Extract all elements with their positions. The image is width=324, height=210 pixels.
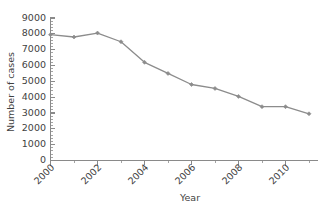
- y-tick-label-8000: 8000: [22, 27, 46, 38]
- series-markers-group: [49, 31, 312, 116]
- x-axis-ticks: [51, 161, 310, 166]
- x-tick-label-2010: 2010: [267, 162, 292, 187]
- y-tick-label-7000: 7000: [22, 43, 46, 54]
- data-point-2002: [96, 31, 100, 35]
- data-point-2000: [49, 33, 53, 37]
- x-axis-title: Year: [179, 192, 200, 203]
- x-tick-label-2002: 2002: [79, 162, 104, 187]
- y-axis-tick-labels: 0 1000 2000 3000 4000 5000 6000 7000 800…: [22, 12, 46, 166]
- x-axis-tick-labels: 2000 2002 2004 2006 2008 2010: [32, 162, 292, 187]
- y-tick-label-2000: 2000: [22, 122, 46, 133]
- chart-plot-area: 0 1000 2000 3000 4000 5000 6000 7000 800…: [0, 0, 324, 210]
- y-axis-ticks: [51, 18, 56, 161]
- data-point-2010: [284, 105, 288, 109]
- data-point-2007: [213, 86, 217, 90]
- x-tick-label-2000: 2000: [32, 162, 57, 187]
- y-tick-label-3000: 3000: [22, 107, 46, 118]
- y-tick-label-5000: 5000: [22, 75, 46, 86]
- data-point-2009: [260, 105, 264, 109]
- data-point-2011: [307, 112, 311, 116]
- data-point-2001: [72, 35, 76, 39]
- data-point-2006: [190, 83, 194, 87]
- y-tick-label-6000: 6000: [22, 59, 46, 70]
- x-tick-label-2004: 2004: [126, 162, 151, 187]
- y-tick-label-4000: 4000: [22, 91, 46, 102]
- x-tick-label-2006: 2006: [173, 162, 198, 187]
- y-axis-title: Number of cases: [5, 52, 16, 132]
- data-series-group: [49, 31, 312, 116]
- series-line-number-of-cases: [51, 33, 310, 114]
- y-tick-label-0: 0: [40, 154, 46, 165]
- line-chart: 0 1000 2000 3000 4000 5000 6000 7000 800…: [0, 0, 324, 210]
- y-tick-label-9000: 9000: [22, 12, 46, 23]
- data-point-2005: [166, 71, 170, 75]
- data-point-2008: [237, 94, 241, 98]
- y-tick-label-1000: 1000: [22, 138, 46, 149]
- x-tick-label-2008: 2008: [220, 162, 245, 187]
